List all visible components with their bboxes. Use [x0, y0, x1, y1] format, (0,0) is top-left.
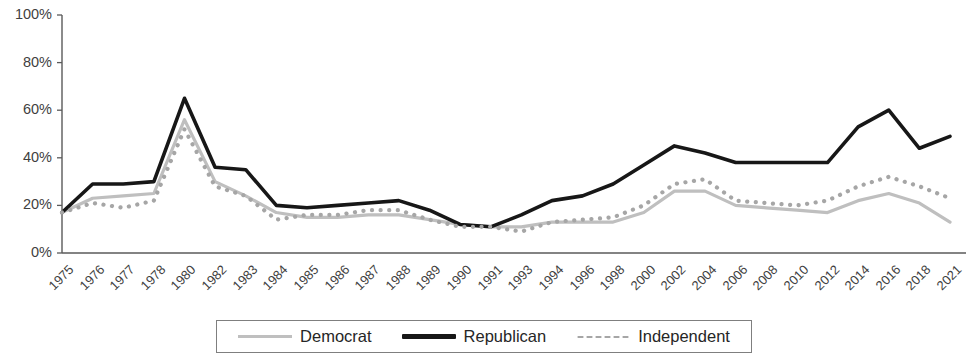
y-axis-label-2: 40% — [8, 149, 52, 165]
legend-item-democrat[interactable]: Democrat — [238, 328, 372, 345]
line-chart: 0%20%40%60%80%100% 197519761977197819801… — [0, 0, 968, 359]
legend-swatch-democrat-icon — [238, 335, 292, 338]
legend-item-republican[interactable]: Republican — [402, 328, 547, 345]
y-axis-label-0: 0% — [8, 244, 52, 260]
y-axis-label-4: 80% — [8, 54, 52, 70]
legend-label: Independent — [638, 328, 730, 345]
legend-item-independent[interactable]: Independent — [576, 328, 730, 345]
series-line-republican — [62, 98, 950, 227]
y-axis-label-3: 60% — [8, 101, 52, 117]
chart-plot-area — [0, 0, 968, 359]
chart-legend: DemocratRepublicanIndependent — [216, 320, 752, 353]
y-axis-label-5: 100% — [8, 6, 52, 22]
series-line-democrat — [62, 120, 950, 227]
legend-label: Democrat — [300, 328, 372, 345]
y-axis-label-1: 20% — [8, 196, 52, 212]
legend-label: Republican — [464, 328, 547, 345]
legend-swatch-republican-icon — [402, 334, 456, 339]
legend-swatch-independent-icon — [576, 335, 630, 339]
